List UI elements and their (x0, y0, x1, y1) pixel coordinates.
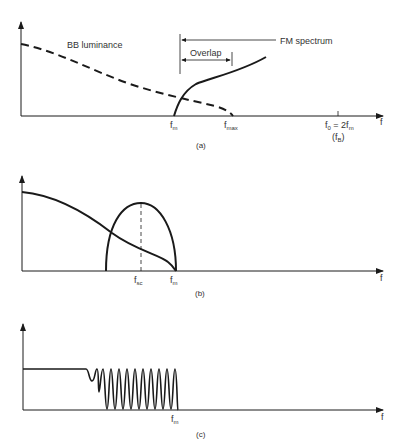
panel-c: fm f (c) (23, 324, 384, 439)
fm-spectrum-label: FM spectrum (280, 36, 333, 46)
luminance-curve-b (22, 192, 176, 271)
bb-luminance-label: BB luminance (67, 40, 123, 50)
overlap-label: Overlap (190, 48, 222, 58)
tick-label-fm-b: fm (170, 275, 178, 286)
tick-label-fsc: fsc (134, 275, 143, 286)
panel-b: fsc fm f (b) (22, 176, 383, 298)
x-axis-label-c: f (381, 412, 384, 422)
tick-label-f0: f0 = 2fm (325, 120, 354, 131)
tick-label-fB: (fB) (332, 132, 345, 143)
tick-label-fm-c: fm (171, 414, 179, 425)
tick-label-fm-a: fm (170, 120, 178, 131)
comb-response-curve (23, 369, 178, 410)
tick-label-fmax: fmax (224, 120, 238, 131)
x-axis-label-b: f (380, 273, 383, 283)
caption-b: (b) (195, 289, 205, 298)
caption-c: (c) (196, 430, 206, 439)
x-axis-label-a: f (380, 117, 383, 127)
caption-a: (a) (196, 141, 206, 150)
panel-a: FM spectrum Overlap BB luminance fm fmax… (21, 22, 383, 150)
diagram-canvas: FM spectrum Overlap BB luminance fm fmax… (0, 0, 403, 443)
